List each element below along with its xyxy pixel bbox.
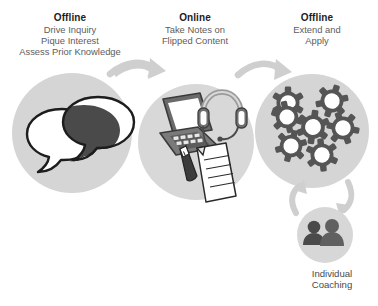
stage-3-line-2: Apply xyxy=(258,35,376,46)
coaching-line-2: Coaching xyxy=(286,279,378,290)
stage-1-line-1: Drive Inquiry xyxy=(2,24,138,35)
stage-offline-extend-graphic xyxy=(255,74,369,188)
diagram-canvas: Offline Drive Inquiry Pique Interest Ass… xyxy=(0,0,378,306)
stage-online-notes-graphic xyxy=(138,84,254,202)
coaching-label: Individual Coaching xyxy=(286,268,378,291)
arrow-stage2-to-stage3-graphic xyxy=(238,59,292,80)
arrow-stage1-to-stage2-graphic xyxy=(110,58,166,79)
stage-2-line-1: Take Notes on xyxy=(136,24,254,35)
stage-2-label: Online Take Notes on Flipped Content xyxy=(136,12,254,46)
stage-1-title: Offline xyxy=(2,12,138,24)
stage-3-line-1: Extend and xyxy=(258,24,376,35)
stage-1-line-2: Pique Interest xyxy=(2,35,138,46)
stage-1-line-3: Assess Prior Knowledge xyxy=(2,46,138,57)
stage-2-title: Online xyxy=(136,12,254,24)
stage-3-title: Offline xyxy=(258,12,376,24)
coaching-line-1: Individual xyxy=(286,268,378,279)
stage-1-label: Offline Drive Inquiry Pique Interest Ass… xyxy=(2,12,138,57)
stage-3-label: Offline Extend and Apply xyxy=(258,12,376,46)
stage-offline-inquiry-graphic xyxy=(12,73,134,193)
stage-2-line-2: Flipped Content xyxy=(136,35,254,46)
stage-individual-coaching-graphic xyxy=(297,207,353,263)
